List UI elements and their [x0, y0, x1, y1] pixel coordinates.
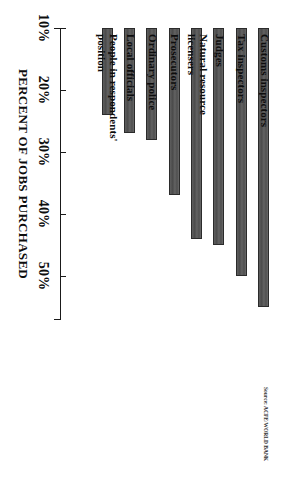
chart-figure: 10%20%30%40%50% PERCENT OF JOBS PURCHASE…	[0, 0, 283, 493]
category-label: Local officials	[124, 34, 136, 154]
source-note: Source: ACFE/WORLD BANK	[263, 387, 269, 461]
category-label: Prosecutors	[169, 34, 181, 154]
category-label: Customs inspectors	[258, 34, 270, 154]
category-label: Ordinary police	[146, 34, 158, 154]
category-label: Natural resource licensers	[185, 34, 208, 154]
category-label: Tax inspectors	[235, 34, 247, 154]
category-label: People in respondents' position	[96, 34, 119, 154]
category-label: Judges	[213, 34, 225, 154]
source-note-wrap: Source: ACFE/WORLD BANK	[263, 383, 283, 493]
